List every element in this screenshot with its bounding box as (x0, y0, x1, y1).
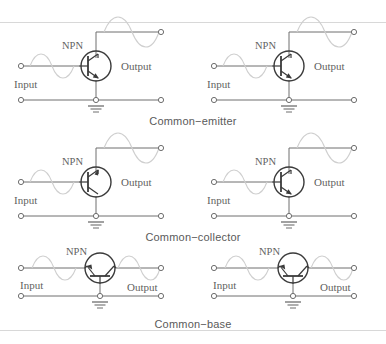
output-terminal-bottom (351, 213, 356, 218)
input-terminal-top (211, 63, 216, 68)
input-terminal-bottom (211, 213, 216, 218)
caption-common-collector: Common−collector (0, 231, 386, 243)
input-label: Input (207, 194, 230, 206)
circuit-common-base-right: NPN Input Output (193, 244, 386, 322)
output-terminal-top (351, 265, 356, 270)
bottom-divider-rule (0, 330, 386, 331)
input-label: Input (14, 194, 37, 206)
input-terminal-bottom (211, 293, 216, 298)
input-terminal-top (18, 63, 23, 68)
npn-transistor-symbol (85, 253, 116, 284)
output-terminal-bottom (158, 293, 163, 298)
npn-label: NPN (66, 246, 87, 257)
input-terminal-bottom (18, 213, 23, 218)
output-terminal-bottom (158, 97, 163, 102)
output-label: Output (121, 60, 152, 72)
input-terminal-top (18, 179, 23, 184)
caption-common-emitter: Common−emitter (0, 115, 386, 127)
circuit-common-emitter-right: NPN Input Output (193, 14, 386, 126)
output-label: Output (121, 176, 152, 188)
output-terminal-top (351, 145, 356, 150)
caption-common-base: Common−base (0, 318, 386, 330)
input-label: Input (20, 279, 43, 291)
npn-label: NPN (259, 246, 280, 257)
output-terminal-top (158, 145, 163, 150)
output-terminal-bottom (158, 213, 163, 218)
output-terminal-top (158, 29, 163, 34)
input-terminal-bottom (211, 97, 216, 102)
input-label: Input (207, 78, 230, 90)
npn-transistor-symbol (272, 167, 304, 197)
npn-label: NPN (62, 40, 83, 51)
circuit-common-emitter-left: NPN Input Output (0, 14, 193, 126)
output-terminal-top (158, 265, 163, 270)
input-label: Input (213, 279, 236, 291)
npn-transistor-symbol (272, 51, 304, 81)
figure-canvas: NPN Input Output (0, 0, 386, 344)
output-terminal-top (351, 29, 356, 34)
circuit-common-collector-right: NPN Input Output (193, 130, 386, 242)
npn-transistor-symbol (79, 167, 111, 197)
output-label: Output (320, 281, 351, 293)
npn-label: NPN (255, 40, 276, 51)
input-terminal-top (211, 179, 216, 184)
input-label: Input (14, 78, 37, 90)
npn-transistor-symbol (278, 253, 309, 284)
npn-label: NPN (255, 156, 276, 167)
input-terminal-bottom (18, 293, 23, 298)
input-terminal-bottom (18, 97, 23, 102)
output-label: Output (314, 60, 345, 72)
npn-label: NPN (62, 156, 83, 167)
output-label: Output (314, 176, 345, 188)
input-terminal-top (18, 265, 23, 270)
output-label: Output (127, 281, 158, 293)
output-terminal-bottom (351, 293, 356, 298)
output-terminal-bottom (351, 97, 356, 102)
input-terminal-top (211, 265, 216, 270)
circuit-common-collector-left: NPN Input Output (0, 130, 193, 242)
npn-transistor-symbol (79, 51, 111, 81)
circuit-common-base-left: NPN Input Output (0, 244, 193, 322)
